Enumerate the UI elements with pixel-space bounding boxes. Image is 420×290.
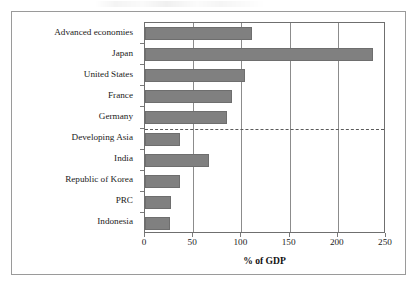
bar-japan [145,48,373,61]
bar-republic-of-korea [145,175,180,188]
y-axis-tick [140,170,144,171]
y-axis-tick [140,106,144,107]
y-axis-tick [140,85,144,86]
bar-france [145,90,232,103]
x-axis-tick-label-250: 250 [365,238,405,247]
bar-germany [145,111,227,124]
bar-united-states [145,69,245,82]
category-label-germany: Germany [99,112,133,121]
y-axis-tick [140,149,144,150]
bar-indonesia [145,217,170,230]
bar-advanced-economies [145,27,252,40]
category-label-advanced-economies: Advanced economies [54,28,133,37]
category-label-india: India [114,154,133,163]
category-label-japan: Japan [112,49,133,58]
category-label-republic-of-korea: Republic of Korea [65,175,133,184]
x-axis-tick-label-0: 0 [124,238,164,247]
group-separator-line [145,129,384,130]
y-axis-tick [140,128,144,129]
bar-developing-asia [145,133,180,146]
y-axis-tick [140,64,144,65]
bar-chart: Advanced economiesJapanUnited StatesFran… [0,0,420,290]
category-label-united-states: United States [84,70,133,79]
category-label-developing-asia: Developing Asia [72,133,134,142]
y-axis-tick [140,191,144,192]
x-axis-tick-label-50: 50 [172,238,212,247]
x-axis-title: % of GDP [144,256,385,266]
bar-prc [145,196,171,209]
category-axis-labels: Advanced economiesJapanUnited StatesFran… [0,0,139,290]
x-axis-tick-label-200: 200 [317,238,357,247]
y-axis-tick [140,43,144,44]
category-label-indonesia: Indonesia [97,217,133,226]
x-axis-tick-label-100: 100 [220,238,260,247]
plot-area [144,22,385,233]
y-axis-tick [140,212,144,213]
bar-india [145,154,209,167]
category-label-prc: PRC [116,196,133,205]
x-axis-tick-label-150: 150 [269,238,309,247]
category-label-france: France [108,91,133,100]
